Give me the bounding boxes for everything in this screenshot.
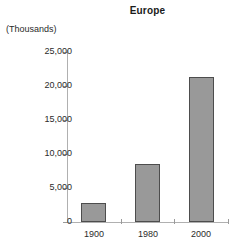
y-axis-line — [67, 50, 68, 223]
bar — [189, 77, 214, 222]
chart-container: Europe (Thousands) 05,00010,00015,00020,… — [0, 0, 233, 251]
bar — [135, 164, 160, 222]
x-axis-line — [67, 222, 228, 223]
y-tick-label: 5,000 — [14, 183, 72, 192]
y-tick-label: 10,000 — [14, 149, 72, 158]
y-tick-label: 15,000 — [14, 115, 72, 124]
x-tick-label: 1900 — [67, 229, 121, 239]
y-tick-label: 25,000 — [14, 47, 72, 56]
bar — [81, 203, 106, 222]
x-tick-label: 2000 — [174, 229, 228, 239]
y-tick-label: 0 — [14, 217, 72, 226]
x-tick-mark — [174, 219, 175, 224]
plot-area: 05,00010,00015,00020,00025,000 190019802… — [0, 0, 233, 251]
y-tick-label: 20,000 — [14, 81, 72, 90]
x-tick-mark — [121, 219, 122, 224]
x-tick-label: 1980 — [121, 229, 175, 239]
x-tick-mark — [228, 219, 229, 224]
